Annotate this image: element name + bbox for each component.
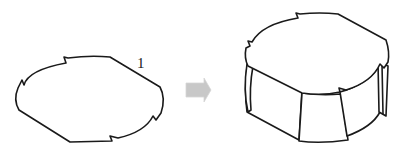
- solid-right-strip-edge: [382, 64, 383, 114]
- arrow-icon: [186, 78, 211, 102]
- extruded-solid: [245, 13, 388, 142]
- profile-sketch: 1: [16, 55, 164, 142]
- diagram-canvas: 1: [0, 0, 409, 159]
- profile-label: 1: [137, 55, 145, 71]
- transform-arrow: [186, 78, 211, 102]
